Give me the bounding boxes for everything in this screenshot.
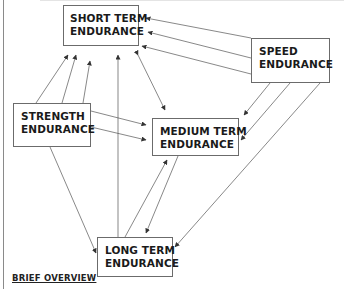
node-label-line2: ENDURANCE	[105, 257, 172, 270]
arrow-speed-to-short-3	[142, 46, 251, 74]
node-long-term-endurance: LONG TERM ENDURANCE	[97, 237, 173, 277]
node-label-line1: MEDIUM TERM	[160, 125, 238, 138]
arrow-speed-to-short-2	[148, 32, 251, 58]
node-speed-endurance: SPEED ENDURANCE	[251, 38, 330, 83]
caption-brief-overview: BRIEF OVERVIEW	[12, 273, 96, 283]
node-label-line2: ENDURANCE	[70, 25, 138, 38]
node-label-line1: STRENGTH	[21, 110, 90, 123]
arrow-strength-to-short-1	[36, 55, 68, 103]
arrow-speed-to-medium-2	[241, 83, 290, 140]
arrow-strength-to-medium-2	[91, 127, 146, 140]
arrow-speed-to-long	[175, 83, 320, 247]
node-medium-term-endurance: MEDIUM TERM ENDURANCE	[152, 118, 239, 156]
arrow-strength-to-short-3	[83, 61, 90, 103]
node-label-line1: SPEED	[259, 45, 329, 58]
node-label-line1: LONG TERM	[105, 244, 172, 257]
arrow-strength-to-short-2	[62, 55, 76, 103]
arrow-speed-to-short-1	[146, 18, 251, 38]
arrow-strength-to-long	[50, 147, 96, 253]
node-strength-endurance: STRENGTH ENDURANCE	[13, 103, 91, 147]
node-label-line1: SHORT TERM	[70, 12, 138, 25]
arrow-medium-to-long	[146, 156, 178, 233]
node-label-line2: ENDURANCE	[160, 138, 238, 151]
arrow-speed-to-medium-1	[244, 83, 270, 115]
arrow-short-medium	[138, 55, 165, 110]
node-short-term-endurance: SHORT TERM ENDURANCE	[63, 5, 139, 46]
node-label-line2: ENDURANCE	[21, 123, 90, 136]
arrow-strength-to-medium-1	[91, 111, 146, 125]
node-label-line2: ENDURANCE	[259, 58, 329, 71]
